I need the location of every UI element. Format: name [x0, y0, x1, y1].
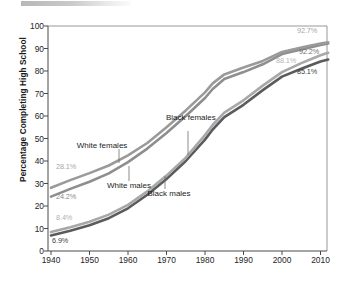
annotation-black-females: Black females: [166, 113, 210, 123]
start-label-black-females: 8.4%: [56, 213, 72, 222]
y-axis-ticks: [44, 26, 48, 251]
x-axis-ticks: [51, 251, 321, 255]
start-label-white-males: 24.2%: [56, 192, 76, 201]
start-label-white-females: 28.1%: [56, 162, 76, 171]
end-label-black-males: 85.1%: [297, 67, 317, 76]
end-label-black-females: 88.1%: [276, 56, 296, 65]
annotation-black-males: Black males: [139, 189, 199, 199]
end-label-white-females: 92.7%: [297, 26, 317, 35]
annotation-white-females: White females: [70, 141, 134, 151]
start-label-black-males: 6.9%: [52, 236, 68, 245]
line-chart-figure: Percentage Completing High School 100 90…: [0, 0, 341, 288]
end-label-white-males: 92.2%: [299, 47, 319, 56]
